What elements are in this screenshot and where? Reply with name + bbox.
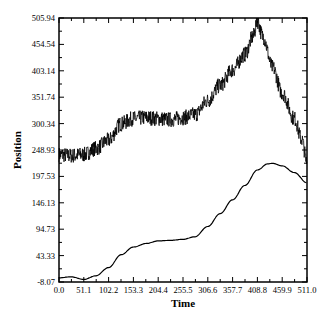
x-tick-label: 306.6 [198, 285, 217, 295]
y-tick-label: 300.34 [32, 119, 56, 129]
y-tick-label: 403.14 [32, 66, 56, 76]
x-tick-label: 459.9 [273, 285, 292, 295]
y-tick-label: 94.73 [36, 224, 55, 234]
y-tick-label: 197.53 [32, 171, 55, 181]
x-tick-label: 511.0 [298, 285, 317, 295]
x-axis-label: Time [171, 297, 195, 309]
y-tick-label: 146.13 [32, 198, 55, 208]
y-tick-label: -8.07 [37, 277, 55, 287]
x-tick-label: 0.0 [54, 285, 65, 295]
y-tick-label: 505.94 [32, 13, 56, 23]
y-axis-label: Position [11, 131, 23, 169]
x-tick-label: 102.2 [99, 285, 118, 295]
y-tick-label: 43.33 [36, 251, 55, 261]
y-tick-label: 454.54 [32, 39, 56, 49]
smooth-series-line [59, 163, 307, 279]
x-tick-label: 153.3 [124, 285, 143, 295]
x-tick-label: 255.5 [173, 285, 192, 295]
y-tick-label: 351.74 [32, 92, 56, 102]
series-layer [59, 18, 307, 279]
line-chart: -8.0743.3394.73146.13197.53248.93300.343… [0, 0, 329, 321]
x-tick-label: 408.8 [248, 285, 267, 295]
x-tick-label: 357.7 [223, 285, 242, 295]
x-tick-label: 51.1 [76, 285, 91, 295]
noisy-series-line [59, 18, 307, 164]
y-tick-label: 248.93 [32, 145, 55, 155]
x-tick-label: 204.4 [149, 285, 169, 295]
